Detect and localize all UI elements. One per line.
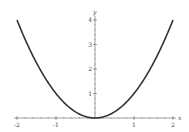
y-tick-label: 3 (88, 41, 92, 48)
y-tick-label: 1 (88, 90, 92, 97)
y-axis-label: y (92, 8, 97, 16)
x-tick-label: 2 (171, 121, 175, 128)
parabola-chart: -2-112 1234 x y (0, 0, 189, 132)
y-ticks: 1234 (88, 16, 97, 97)
x-axis-label: x (178, 114, 182, 121)
y-tick-label: 4 (88, 16, 92, 23)
x-tick-label: 1 (132, 121, 136, 128)
x-tick-label: -1 (53, 121, 59, 128)
x-tick-label: -2 (14, 121, 20, 128)
y-tick-label: 2 (88, 65, 92, 72)
